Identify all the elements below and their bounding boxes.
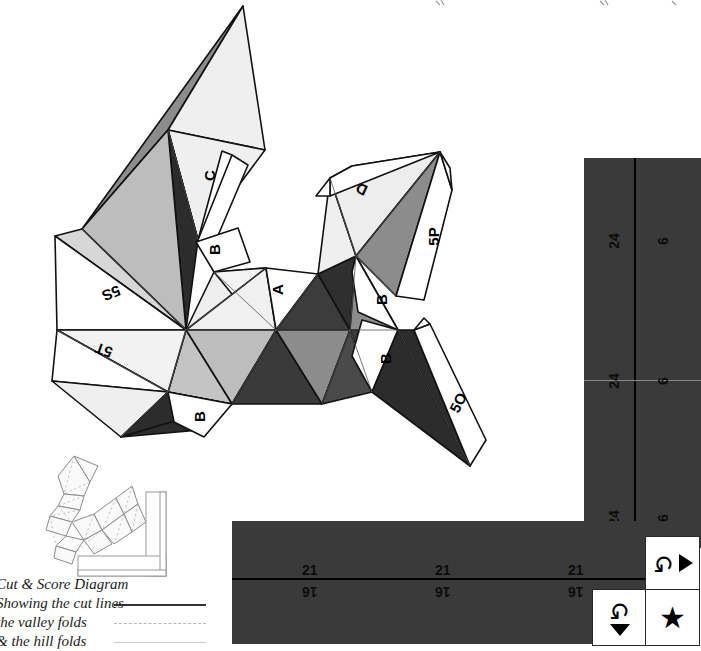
net-label-A: A xyxy=(269,284,286,295)
square-rotate-down[interactable]: ↺ xyxy=(592,589,647,646)
mini-layout-preview xyxy=(28,452,208,584)
net-label-C: C xyxy=(201,170,218,181)
legend-cut-line-sample xyxy=(114,604,206,606)
legend-valley-fold-sample xyxy=(114,623,206,624)
rotate-right-symbol-group: ↺ xyxy=(653,552,693,575)
panel-number-6: 6 xyxy=(655,237,671,245)
legend: Cut & Score Diagram Showing the cut line… xyxy=(0,576,236,651)
panel-number-16: 16 xyxy=(435,584,451,600)
legend-row: Showing the cut lines xyxy=(0,595,236,614)
legend-hill-folds-label: & the hill folds xyxy=(0,633,86,650)
triangle-down-icon xyxy=(610,624,630,636)
panel-number-21: 21 xyxy=(302,562,318,578)
panel-number-16: 16 xyxy=(568,584,584,600)
legend-row: Cut & Score Diagram xyxy=(0,576,236,595)
square-rotate-right[interactable]: ↺ xyxy=(645,536,700,590)
legend-title: Cut & Score Diagram xyxy=(0,576,128,593)
rotate-down-symbol-group: ↺ xyxy=(609,599,630,637)
legend-hill-fold-sample xyxy=(114,642,206,643)
panel-number-6: 6 xyxy=(655,377,671,385)
panel-number-24: 24 xyxy=(606,233,622,249)
square-star[interactable]: ★ xyxy=(645,589,700,646)
panel-number-21: 21 xyxy=(435,562,451,578)
net-face xyxy=(168,6,265,150)
panel-number-6: 6 xyxy=(655,514,671,522)
net-label-B: B xyxy=(377,353,394,364)
rotate-ccw-icon: ↺ xyxy=(609,599,630,622)
legend-valley-folds-label: the valley folds xyxy=(0,614,87,631)
star-icon: ★ xyxy=(659,603,686,633)
triangle-right-icon xyxy=(679,554,693,572)
legend-row: & the hill folds xyxy=(0,633,236,651)
net-label-5P: 5P xyxy=(425,227,442,245)
legend-cut-lines-label: Showing the cut lines xyxy=(0,595,124,612)
diagram-canvas: C B A 5S 5T B D 5P B B 5O 24 6 24 6 24 6… xyxy=(0,0,701,651)
net-label-B: B xyxy=(191,411,208,422)
panel-number-21: 21 xyxy=(568,562,584,578)
net-label-B: B xyxy=(206,244,223,255)
horizontal-strip-panel: 21 21 21 16 16 16 xyxy=(232,521,650,644)
net-label-B: B xyxy=(373,294,390,305)
net-tab-D xyxy=(316,178,330,196)
panel-number-16: 16 xyxy=(302,584,318,600)
panel-number-24: 24 xyxy=(606,373,622,389)
rotate-ccw-icon: ↺ xyxy=(653,552,674,575)
vertical-strip-panel: 24 6 24 6 24 6 xyxy=(584,158,701,548)
legend-row: the valley folds xyxy=(0,614,236,633)
